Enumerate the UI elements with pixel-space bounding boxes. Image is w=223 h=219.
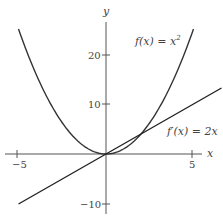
derivative-line — [19, 88, 222, 204]
y-tick-label-neg10: −10 — [80, 199, 101, 210]
f-label: f(x) = x2 — [134, 34, 181, 48]
y-axis-label: y — [102, 5, 110, 18]
function-plot: −5 5 20 10 −10 x y f(x) = x2 f′(x) = 2x — [0, 0, 223, 219]
x-tick-label-neg5: −5 — [12, 159, 27, 170]
x-tick-label-5: 5 — [189, 159, 195, 170]
fprime-label: f′(x) = 2x — [166, 125, 219, 138]
y-tick-label-10: 10 — [88, 99, 101, 110]
x-axis-label: x — [207, 147, 214, 160]
y-tick-label-20: 20 — [88, 50, 101, 61]
